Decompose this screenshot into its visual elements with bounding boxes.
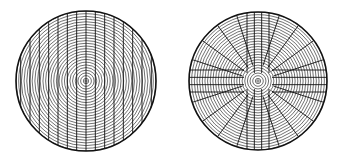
left-circle-concentric-vertical <box>16 11 156 151</box>
two-circle-pattern-diagram <box>0 0 344 165</box>
right-circle-concentric-radial <box>189 12 327 150</box>
